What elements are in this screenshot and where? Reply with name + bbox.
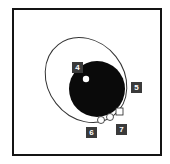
small-square [116,108,123,115]
small-circle-a [98,117,105,124]
label-5: 5 [131,82,142,93]
label-6: 6 [86,127,97,138]
center-dot [83,76,89,82]
small-circle-b [107,114,114,121]
diagram-canvas [0,0,170,164]
label-4: 4 [72,62,83,73]
label-7: 7 [116,124,127,135]
